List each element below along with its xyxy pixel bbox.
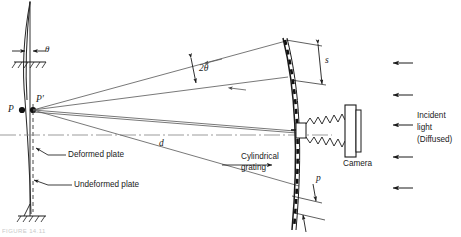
point-p-prime-label: P′ bbox=[36, 93, 44, 106]
incident-light-label-line1: Incident bbox=[417, 111, 446, 122]
camera-bellows bbox=[306, 114, 345, 147]
dimension-s-label: s bbox=[325, 54, 329, 67]
two-theta-label: 2θ bbox=[199, 62, 208, 75]
theta-label: θ bbox=[45, 44, 49, 56]
incident-light-arrows bbox=[393, 63, 413, 188]
incident-light-label-line3: (Diffused) bbox=[417, 135, 452, 146]
incident-light-label-line2: light bbox=[417, 123, 432, 134]
figure-container: θ 2θ P P′ d s p Deformed plate Undeforme… bbox=[0, 0, 461, 237]
ground-support-icon bbox=[12, 62, 46, 68]
distance-d-label: d bbox=[159, 137, 164, 150]
angle-2theta-marker bbox=[191, 58, 196, 83]
deformed-plate-label: Deformed plate bbox=[68, 150, 124, 161]
camera-label: Camera bbox=[343, 159, 372, 170]
undeformed-plate-label: Undeformed plate bbox=[74, 180, 139, 191]
ground-support-bottom-icon bbox=[17, 204, 46, 222]
pitch-p-label: p bbox=[316, 172, 321, 185]
point-p-label: P bbox=[8, 103, 14, 116]
figure-caption: FIGURE 14.11 bbox=[2, 228, 152, 237]
optical-setup-diagram bbox=[0, 0, 461, 237]
camera-body bbox=[345, 105, 361, 157]
grating-center-hub bbox=[291, 123, 306, 138]
cylindrical-grating-label-line2: grating bbox=[241, 163, 266, 174]
cylindrical-grating-label-line1: Cylindrical bbox=[241, 152, 279, 163]
